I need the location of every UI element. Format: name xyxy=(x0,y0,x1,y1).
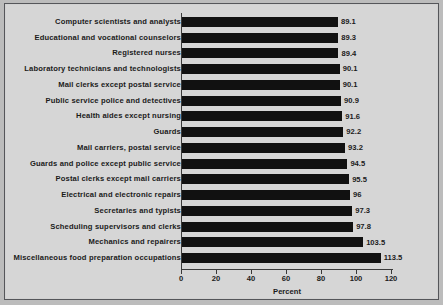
bar xyxy=(182,111,342,121)
bar-container: 90.1 xyxy=(182,64,357,74)
bar-category-label: Miscellaneous food preparation occupatio… xyxy=(13,254,181,262)
bar xyxy=(182,237,363,247)
bar-category-label: Secretaries and typists xyxy=(94,207,181,215)
bar xyxy=(182,64,340,74)
bar-category-label: Guards xyxy=(154,128,182,136)
bar-chart-plot: Computer scientists and analysts89.1Educ… xyxy=(0,0,443,305)
bar xyxy=(182,127,343,137)
bar-category-label: Postal clerks except mail carriers xyxy=(56,176,181,184)
axis-tick-label: 120 xyxy=(385,275,398,283)
bar-row: Health aides except nursing91.6 xyxy=(0,109,443,125)
axis-tick-label: 40 xyxy=(247,275,255,283)
bar-value-label: 97.3 xyxy=(355,207,370,215)
bar-row: Laboratory technicians and technologists… xyxy=(0,61,443,77)
bar-row: Electrical and electronic repairs96 xyxy=(0,187,443,203)
bar-row: Mail clerks except postal service90.1 xyxy=(0,77,443,93)
bar-row: Mechanics and repairers103.5 xyxy=(0,235,443,251)
bar-value-label: 94.5 xyxy=(350,160,365,168)
bar xyxy=(182,253,381,263)
bar xyxy=(182,190,350,200)
bar-container: 97.8 xyxy=(182,222,371,232)
bar-value-label: 90.9 xyxy=(344,97,359,105)
bar-category-label: Computer scientists and analysts xyxy=(55,18,181,26)
bar-container: 92.2 xyxy=(182,127,361,137)
bar-container: 89.1 xyxy=(182,17,356,27)
axis-tick-label: 80 xyxy=(317,275,325,283)
bar-row: Scheduling supervisors and clerks97.8 xyxy=(0,219,443,235)
bar-row: Registered nurses89.4 xyxy=(0,46,443,62)
bar-value-label: 95.5 xyxy=(352,176,367,184)
bar-container: 103.5 xyxy=(182,237,385,247)
bar-category-label: Electrical and electronic repairs xyxy=(61,191,181,199)
bar xyxy=(182,174,349,184)
bar xyxy=(182,96,341,106)
bar-row: Miscellaneous food preparation occupatio… xyxy=(0,250,443,266)
bar-row: Secretaries and typists97.3 xyxy=(0,203,443,219)
bar-value-label: 93.2 xyxy=(348,144,363,152)
bar xyxy=(182,159,347,169)
bar-container: 95.5 xyxy=(182,174,367,184)
bar-category-label: Mail carriers, postal service xyxy=(77,144,181,152)
bar-container: 89.4 xyxy=(182,48,356,58)
bar-row: Computer scientists and analysts89.1 xyxy=(0,14,443,30)
bar-container: 97.3 xyxy=(182,206,370,216)
bar-rows: Computer scientists and analysts89.1Educ… xyxy=(0,14,443,266)
bar-category-label: Laboratory technicians and technologists xyxy=(24,65,181,73)
bar-category-label: Mechanics and repairers xyxy=(88,239,181,247)
value-axis-line xyxy=(181,269,393,270)
bar-value-label: 89.4 xyxy=(341,50,356,58)
bar-container: 113.5 xyxy=(182,253,402,263)
bar-category-label: Health aides except nursing xyxy=(76,113,181,121)
bar-row: Public service police and detectives90.9 xyxy=(0,93,443,109)
bar-category-label: Mail clerks except postal service xyxy=(58,81,181,89)
bar-container: 94.5 xyxy=(182,159,365,169)
bar xyxy=(182,206,352,216)
bar-container: 90.9 xyxy=(182,96,359,106)
bar-category-label: Public service police and detectives xyxy=(46,97,181,105)
bar xyxy=(182,80,340,90)
bar-value-label: 113.5 xyxy=(384,254,403,262)
bar-value-label: 89.1 xyxy=(341,18,356,26)
bar-value-label: 92.2 xyxy=(346,128,361,136)
bar-container: 91.6 xyxy=(182,111,360,121)
axis-tick-label: 100 xyxy=(350,275,363,283)
chart-figure: Computer scientists and analysts89.1Educ… xyxy=(0,0,443,305)
axis-tick-label: 60 xyxy=(282,275,290,283)
bar-value-label: 97.8 xyxy=(356,223,371,231)
bar xyxy=(182,17,338,27)
bar-category-label: Registered nurses xyxy=(112,50,181,58)
bar-value-label: 89.3 xyxy=(341,34,356,42)
axis-tick-label: 0 xyxy=(179,275,183,283)
x-axis-title: Percent xyxy=(273,288,301,296)
bar-row: Educational and vocational counselors89.… xyxy=(0,30,443,46)
bar-container: 89.3 xyxy=(182,33,356,43)
bar xyxy=(182,222,353,232)
bar xyxy=(182,48,338,58)
bar-category-label: Guards and police except public service xyxy=(30,160,181,168)
bar-row: Guards and police except public service9… xyxy=(0,156,443,172)
bar-value-label: 91.6 xyxy=(345,113,360,121)
bar-category-label: Educational and vocational counselors xyxy=(34,34,181,42)
bar-value-label: 103.5 xyxy=(366,239,385,247)
bar-container: 90.1 xyxy=(182,80,357,90)
bar-row: Guards92.2 xyxy=(0,124,443,140)
bar xyxy=(182,143,345,153)
bar-value-label: 90.1 xyxy=(343,65,358,73)
bar-value-label: 90.1 xyxy=(343,81,358,89)
bar-value-label: 96 xyxy=(353,191,361,199)
bar xyxy=(182,33,338,43)
axis-tick-label: 20 xyxy=(212,275,220,283)
bar-row: Postal clerks except mail carriers95.5 xyxy=(0,172,443,188)
bar-row: Mail carriers, postal service93.2 xyxy=(0,140,443,156)
bar-container: 96 xyxy=(182,190,361,200)
category-axis-line xyxy=(181,13,182,269)
bar-container: 93.2 xyxy=(182,143,363,153)
bar-category-label: Scheduling supervisors and clerks xyxy=(50,223,181,231)
